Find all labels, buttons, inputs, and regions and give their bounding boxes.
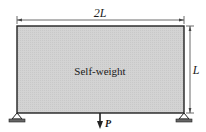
beam-diagram: 2L Self-weight L P bbox=[0, 0, 206, 132]
width-label: 2L bbox=[94, 6, 107, 20]
left-pin-support-icon bbox=[9, 113, 25, 122]
height-label: L bbox=[192, 63, 200, 77]
load-arrow-icon bbox=[97, 113, 103, 129]
diagram-canvas: 2L Self-weight L P bbox=[0, 0, 206, 132]
load-label: P bbox=[105, 118, 112, 129]
right-pin-support-icon bbox=[176, 113, 192, 122]
self-weight-label: Self-weight bbox=[74, 65, 125, 77]
